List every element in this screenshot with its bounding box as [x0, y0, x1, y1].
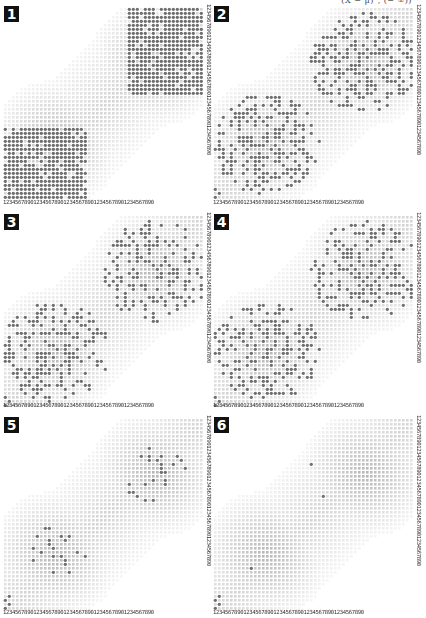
x-axis-digit-labels: 1234567890123456789012345678901234567890…: [213, 402, 364, 408]
x-axis-digit-labels: 1234567890123456789012345678901234567890…: [3, 199, 154, 205]
y-axis-digit-labels: 1234567890123456789012345678901234567890…: [416, 4, 422, 155]
panel-1: 1123456789012345678901234567890123456789…: [0, 0, 210, 208]
dot-matrix-plot: [0, 411, 210, 618]
panel-2: 2123456789012345678901234567890123456789…: [210, 0, 426, 208]
panel-number-badge: 1: [4, 6, 19, 22]
dot-matrix-plot: [210, 208, 426, 411]
x-axis-digit-labels: 1234567890123456789012345678901234567890…: [3, 402, 154, 408]
panel-number-badge: 5: [4, 417, 19, 433]
panel-4: 4123456789012345678901234567890123456789…: [210, 208, 426, 411]
panel-number-badge: 4: [214, 214, 229, 230]
x-axis-digit-labels: 1234567890123456789012345678901234567890…: [213, 199, 364, 205]
panel-3: 3123456789012345678901234567890123456789…: [0, 208, 210, 411]
panel-5: 5123456789012345678901234567890123456789…: [0, 411, 210, 618]
dot-matrix-plot: [210, 411, 426, 618]
x-axis-digit-labels: 1234567890123456789012345678901234567890…: [213, 609, 364, 615]
panel-number-badge: 2: [214, 6, 229, 22]
dot-matrix-plot: [0, 0, 210, 208]
x-axis-digit-labels: 1234567890123456789012345678901234567890…: [3, 609, 154, 615]
y-axis-digit-labels: 1234567890123456789012345678901234567890…: [416, 212, 422, 363]
dot-matrix-plot: [210, 0, 426, 208]
panel-number-badge: 3: [4, 214, 19, 230]
y-axis-digit-labels: 1234567890123456789012345678901234567890…: [416, 415, 422, 566]
panel-number-badge: 6: [214, 417, 229, 433]
dot-matrix-plot: [0, 208, 210, 411]
panel-6: 6123456789012345678901234567890123456789…: [210, 411, 426, 618]
